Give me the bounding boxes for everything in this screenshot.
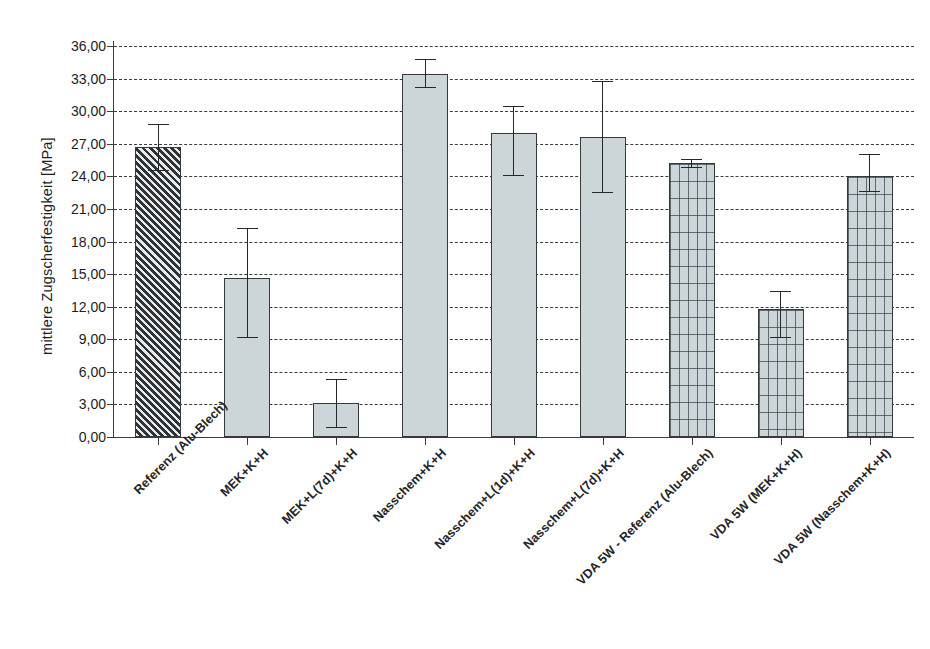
error-bar-cap-lower [415, 87, 436, 88]
bar[interactable] [669, 163, 715, 437]
bar-group [558, 46, 647, 437]
bar-group [292, 46, 381, 437]
bar[interactable] [402, 74, 448, 437]
error-bar-cap-lower [592, 192, 613, 193]
error-bar [780, 291, 781, 338]
y-tick-label: 27,00 [48, 136, 106, 152]
y-tick-label: 3,00 [48, 396, 106, 412]
error-bar-cap-lower [326, 427, 347, 428]
error-bar-stem [513, 106, 514, 177]
y-tick-mark [107, 437, 115, 438]
error-bar [336, 379, 337, 428]
error-bar-cap-upper [859, 154, 880, 155]
bar-chart: mittlere Zugscherfestigkeit [MPa] 36,003… [0, 0, 930, 649]
x-axis-label: Referenz (Alu-Blech) [131, 446, 182, 497]
error-bar [513, 106, 514, 177]
error-bar [869, 154, 870, 192]
x-tick-mark [158, 437, 159, 445]
error-bar-cap-lower [681, 167, 702, 168]
error-bar [602, 81, 603, 193]
error-bar-cap-upper [415, 59, 436, 60]
x-tick-mark [425, 437, 426, 445]
bar-group [203, 46, 292, 437]
error-bar-cap-upper [148, 124, 169, 125]
bar-group [736, 46, 825, 437]
error-bar [158, 124, 159, 171]
error-bar-cap-upper [681, 159, 702, 160]
y-tick-label: 30,00 [48, 103, 106, 119]
y-tick-label: 12,00 [48, 299, 106, 315]
bar[interactable] [491, 133, 537, 437]
error-bar [247, 228, 248, 338]
x-tick-mark [514, 437, 515, 445]
error-bar-cap-upper [237, 228, 258, 229]
y-tick-label: 15,00 [48, 266, 106, 282]
bar-group [825, 46, 914, 437]
x-tick-mark [781, 437, 782, 445]
error-bar-cap-lower [237, 337, 258, 338]
error-bar-cap-lower [148, 170, 169, 171]
error-bar-cap-upper [503, 106, 524, 107]
error-bar-cap-upper [592, 81, 613, 82]
x-tick-mark [692, 437, 693, 445]
bar-group [470, 46, 559, 437]
error-bar-cap-lower [770, 337, 791, 338]
y-axis-tick-labels: 36,0033,0030,0027,0024,0021,0018,0015,00… [48, 0, 106, 649]
x-tick-mark [870, 437, 871, 445]
error-bar-stem [247, 228, 248, 338]
x-tick-mark [247, 437, 248, 445]
plot-area [114, 46, 914, 437]
error-bar-cap-upper [326, 379, 347, 380]
bar[interactable] [847, 176, 893, 437]
error-bar-stem [158, 124, 159, 171]
error-bar-cap-upper [770, 291, 791, 292]
bar[interactable] [135, 147, 181, 437]
error-bar-stem [869, 154, 870, 192]
error-bar-cap-lower [503, 175, 524, 176]
y-tick-label: 33,00 [48, 71, 106, 87]
error-bar-stem [602, 81, 603, 193]
error-bar-stem [780, 291, 781, 338]
bar-group [381, 46, 470, 437]
bar-group [114, 46, 203, 437]
y-tick-label: 36,00 [48, 38, 106, 54]
y-tick-label: 21,00 [48, 201, 106, 217]
x-axis-label: MEK+L(7d)+K+H [183, 446, 360, 623]
y-tick-label: 0,00 [48, 429, 106, 445]
error-bar-stem [336, 379, 337, 428]
error-bar-stem [425, 59, 426, 88]
x-tick-mark [336, 437, 337, 445]
x-tick-mark [603, 437, 604, 445]
bar-group [647, 46, 736, 437]
y-tick-label: 9,00 [48, 331, 106, 347]
error-bar [691, 159, 692, 168]
y-tick-label: 6,00 [48, 364, 106, 380]
x-axis-category-labels: Referenz (Alu-Blech)MEK+K+HMEK+L(7d)+K+H… [114, 446, 930, 646]
y-tick-label: 18,00 [48, 234, 106, 250]
y-tick-label: 24,00 [48, 168, 106, 184]
error-bar-cap-lower [859, 191, 880, 192]
x-axis-label: VDA 5W (MEK+K+H) [313, 446, 804, 649]
error-bar [425, 59, 426, 88]
